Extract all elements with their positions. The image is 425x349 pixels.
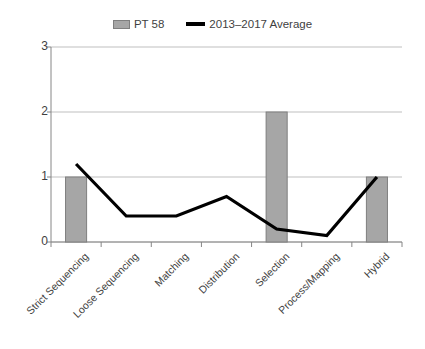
x-tick-label: Selection (252, 250, 291, 289)
x-tick-label: Hybrid (361, 250, 391, 280)
x-tick-label: Distribution (195, 250, 241, 296)
x-axis-labels: Strict SequencingLoose SequencingMatchin… (0, 0, 425, 349)
chart-figure: PT 58 2013–2017 Average 0123 Strict Sequ… (0, 0, 425, 349)
plot-area: 0123 Strict SequencingLoose SequencingMa… (0, 0, 425, 349)
x-tick-label: Matching (152, 250, 191, 289)
